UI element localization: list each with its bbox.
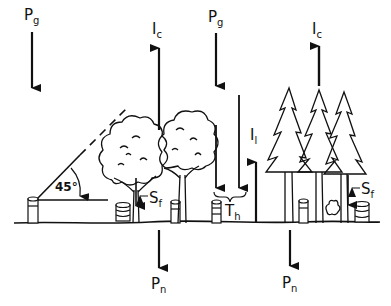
ic-right-label: Ic <box>312 20 322 40</box>
broadleaf-tree-middle <box>158 111 218 223</box>
stemflow-right: Sf <box>348 175 375 205</box>
shrub <box>326 200 340 214</box>
pn-right-label: Pn <box>282 274 297 294</box>
angle-label: 45° <box>55 180 78 194</box>
ground-line <box>14 221 380 223</box>
net-precipitation-right: Pn <box>282 230 297 294</box>
throughfall-gauge <box>212 200 221 223</box>
canopy-interception-left: Ic <box>152 20 162 130</box>
forest-hydrology-diagram: Pg Ic Pg Th Il Ic 45° <box>0 0 391 306</box>
gross-precipitation-middle: Pg <box>208 8 223 86</box>
stemflow-collector-right <box>355 202 369 223</box>
sf-left-label: Sf <box>149 189 163 209</box>
pn-left-label: Pn <box>151 275 166 295</box>
gross-precipitation-left: Pg <box>24 6 39 88</box>
litter-interception: Il <box>250 126 257 222</box>
conifer-trees <box>266 88 366 223</box>
th-label: Th <box>224 202 241 222</box>
rain-gauges <box>28 197 369 223</box>
rain-gauge-4 <box>299 199 308 223</box>
sf-right-label: Sf <box>361 180 375 200</box>
il-label: Il <box>250 126 257 146</box>
ic-left-label: Ic <box>152 20 162 40</box>
stemflow-collector-left <box>116 203 130 222</box>
pg-left-label: Pg <box>24 6 39 26</box>
canopy-interception-right: Ic <box>312 20 322 86</box>
tree-canopy <box>158 111 218 170</box>
angle-gauge: 45° <box>36 107 128 200</box>
tree-canopy <box>99 116 168 185</box>
pg-mid-label: Pg <box>208 8 223 28</box>
rain-gauge-open <box>28 197 38 223</box>
net-precipitation-left: Pn <box>151 230 166 295</box>
